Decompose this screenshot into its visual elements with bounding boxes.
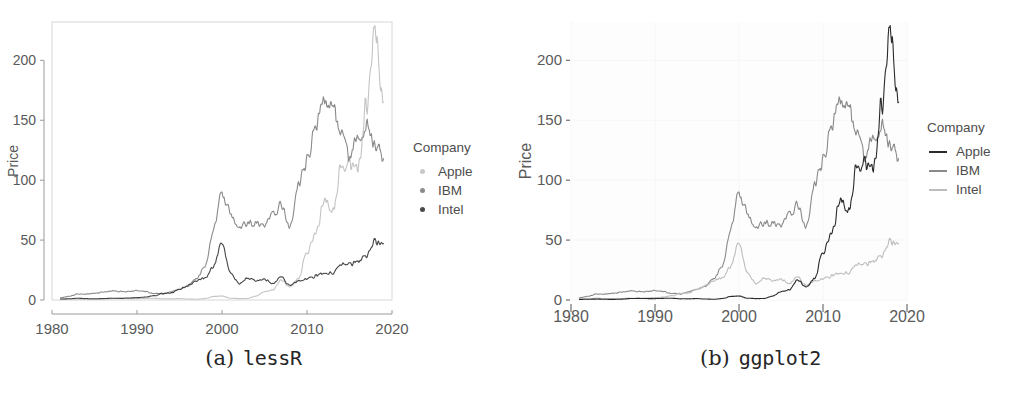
svg-text:150: 150: [537, 111, 562, 128]
caption-label-a: (a): [205, 346, 234, 370]
legend-title-lessr: Company: [413, 140, 473, 155]
svg-text:1990: 1990: [120, 320, 153, 337]
legend-item-ibm-lessr[interactable]: IBM: [413, 181, 473, 200]
svg-text:0: 0: [28, 292, 36, 308]
legend-item-apple-ggplot2[interactable]: Apple: [927, 142, 991, 161]
svg-text:2020: 2020: [375, 320, 408, 337]
svg-text:2000: 2000: [721, 308, 757, 325]
svg-text:0: 0: [554, 291, 562, 308]
caption-ggplot2: (b) ggplot2: [507, 340, 1014, 393]
legend-item-ibm-ggplot2[interactable]: IBM: [927, 161, 991, 180]
svg-text:1980: 1980: [553, 308, 589, 325]
panel-ggplot2: 05010015020019801990200020102020Price Co…: [507, 0, 1014, 393]
legend-label-intel: Intel: [438, 202, 464, 217]
figure-two-panel-stock-charts: 05010015020019801990200020102020Price Co…: [0, 0, 1014, 393]
caption-name-ggplot2: ggplot2: [739, 346, 821, 370]
caption-label-b: (b): [700, 346, 730, 370]
svg-text:1980: 1980: [35, 320, 68, 337]
legend-label-apple: Apple: [438, 164, 473, 179]
legend-item-intel-lessr[interactable]: Intel: [413, 200, 473, 219]
svg-text:50: 50: [20, 232, 36, 248]
legend-label-ibm: IBM: [956, 163, 980, 178]
legend-label-intel: Intel: [956, 182, 982, 197]
legend-item-intel-ggplot2[interactable]: Intel: [927, 180, 991, 199]
svg-text:Price: Price: [5, 145, 21, 177]
svg-text:100: 100: [537, 171, 562, 188]
legend-line-intel-icon: [927, 189, 949, 191]
legend-label-ibm: IBM: [438, 183, 462, 198]
legend-title-ggplot2: Company: [927, 120, 991, 135]
caption-lessr: (a) lessR: [0, 340, 507, 393]
panel-lessr: 05010015020019801990200020102020Price Co…: [0, 0, 507, 393]
legend-item-apple-lessr[interactable]: Apple: [413, 162, 473, 181]
svg-text:Price: Price: [517, 143, 534, 180]
svg-text:2010: 2010: [290, 320, 323, 337]
legend-lessr: Company Apple IBM Intel: [413, 140, 473, 219]
svg-text:150: 150: [13, 112, 37, 128]
legend-dot-apple-icon: [413, 169, 431, 174]
svg-text:200: 200: [13, 52, 37, 68]
legend-line-apple-icon: [927, 151, 949, 153]
svg-text:200: 200: [537, 51, 562, 68]
svg-text:2020: 2020: [889, 308, 925, 325]
caption-name-lessr: lessR: [243, 346, 302, 370]
legend-line-ibm-icon: [927, 170, 949, 172]
legend-dot-ibm-icon: [413, 188, 431, 193]
svg-text:2000: 2000: [205, 320, 238, 337]
legend-dot-intel-icon: [413, 207, 431, 212]
svg-text:1990: 1990: [637, 308, 673, 325]
svg-text:2010: 2010: [805, 308, 841, 325]
legend-ggplot2: Company Apple IBM Intel: [927, 120, 991, 199]
svg-text:50: 50: [545, 231, 562, 248]
legend-label-apple: Apple: [956, 144, 991, 159]
